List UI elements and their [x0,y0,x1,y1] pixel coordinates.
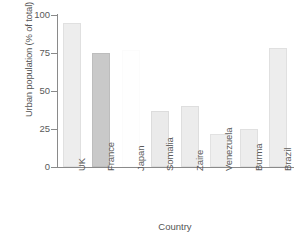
bar-slot [63,15,81,167]
y-tick-mark [51,15,57,16]
y-tick-label: 50 [24,86,50,96]
bar-slot [122,15,140,167]
bar-uk [63,23,81,167]
bar-chart: Urban population (% of total) 0255075100… [0,0,302,241]
x-tick-label: Venezuela [223,128,234,171]
y-tick-label: 75 [24,48,50,58]
y-tick-mark [51,91,57,92]
y-tick-label-group: 0255075100 [24,0,50,241]
y-tick-mark [51,129,57,130]
x-tick-label: Japan [135,146,146,171]
x-tick-label: France [105,142,116,171]
bar-slot [181,15,199,167]
bar-slot [269,15,287,167]
y-tick-label: 25 [24,124,50,134]
x-tick-label: Zaire [194,150,205,171]
x-tick-label: Burma [253,144,264,171]
x-axis-title: Country [57,221,293,232]
y-tick-mark [51,167,57,168]
y-tick-label: 100 [24,10,50,20]
y-tick-label: 0 [24,162,50,172]
x-tick-label: Somalia [164,137,175,171]
x-tick-label: Brazil [282,148,293,171]
y-tick-mark [51,53,57,54]
x-tick-label: UK [76,158,87,171]
